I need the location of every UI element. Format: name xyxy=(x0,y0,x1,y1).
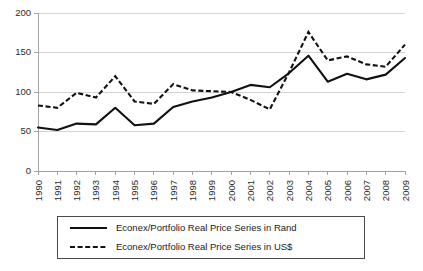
legend-label-2: Econex/Portfolio Real Price Series in US… xyxy=(116,241,293,252)
x-axis-label-1999: 1999 xyxy=(206,180,217,201)
x-axis-label-2002: 2002 xyxy=(264,180,275,201)
x-axis-label-2007: 2007 xyxy=(361,180,372,201)
x-axis-labels-group: 1990199119921993199419951996199719981999… xyxy=(33,180,411,201)
x-axis-label-1996: 1996 xyxy=(148,180,159,201)
y-axis-label-0: 0 xyxy=(26,165,31,176)
y-axis-labels-group: 050100150200 xyxy=(15,7,31,176)
x-axis-label-2009: 2009 xyxy=(400,180,411,201)
line-chart: 050100150200 199019911992199319941995199… xyxy=(0,0,423,271)
x-axis-label-2003: 2003 xyxy=(284,180,295,201)
series-line-1 xyxy=(38,56,405,130)
x-axis-label-1995: 1995 xyxy=(129,180,140,201)
x-axis-label-2005: 2005 xyxy=(322,180,333,201)
x-axis-label-2006: 2006 xyxy=(342,180,353,201)
data-series-group xyxy=(38,32,405,130)
x-axis-label-1997: 1997 xyxy=(168,180,179,201)
y-axis-label-100: 100 xyxy=(15,86,31,97)
y-axis-label-150: 150 xyxy=(15,46,31,57)
x-axis-label-2008: 2008 xyxy=(380,180,391,201)
series-line-2 xyxy=(38,32,405,109)
x-axis-label-1991: 1991 xyxy=(52,180,63,201)
x-axis-label-1993: 1993 xyxy=(90,180,101,201)
x-axis-label-1992: 1992 xyxy=(71,180,82,201)
legend-label-1: Econex/Portfolio Real Price Series in Ra… xyxy=(116,222,297,233)
x-axis-label-2004: 2004 xyxy=(303,180,314,201)
chart-legend: Econex/Portfolio Real Price Series in Ra… xyxy=(57,216,364,258)
x-axis-label-2001: 2001 xyxy=(245,180,256,201)
x-axis-label-1990: 1990 xyxy=(33,180,44,201)
y-axis-ticks-group xyxy=(34,13,38,171)
x-axis-label-2000: 2000 xyxy=(226,180,237,201)
x-axis-label-1994: 1994 xyxy=(110,180,121,201)
x-axis-label-1998: 1998 xyxy=(187,180,198,201)
y-axis-label-200: 200 xyxy=(15,7,31,18)
y-axis-label-50: 50 xyxy=(20,125,31,136)
x-axis-ticks-group xyxy=(38,171,405,175)
chart-container: 050100150200 199019911992199319941995199… xyxy=(0,0,423,271)
